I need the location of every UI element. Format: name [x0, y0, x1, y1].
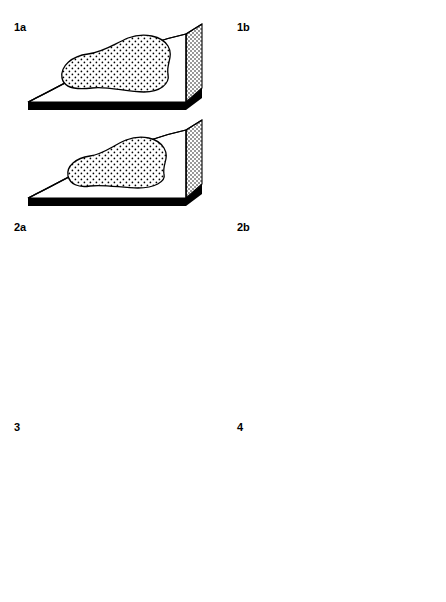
patch-stippled-large [62, 35, 170, 92]
panel-label-2a: 2a [14, 222, 26, 233]
block-1a-upper [28, 24, 202, 110]
panel-label-1b: 1b [237, 22, 250, 33]
block-1a-lower [28, 120, 202, 206]
patch-stippled-large [68, 137, 167, 188]
panel-label-2b: 2b [237, 222, 250, 233]
figure-root: 1a 1b 2a 2b 3 4 [0, 0, 446, 602]
panel-label-1a: 1a [14, 22, 26, 33]
panel-label-3: 3 [14, 422, 20, 433]
block-diagram-figure [0, 0, 446, 602]
panel-label-4: 4 [237, 422, 243, 433]
panel-1a [28, 24, 202, 206]
